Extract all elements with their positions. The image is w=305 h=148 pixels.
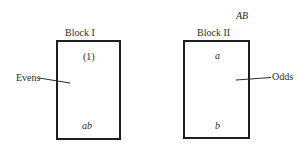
leader-lines xyxy=(0,0,305,148)
odds-leader-line xyxy=(236,78,271,81)
evens-leader-line xyxy=(39,78,70,83)
